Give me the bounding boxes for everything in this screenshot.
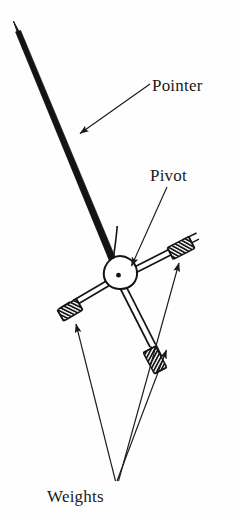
diagram-svg bbox=[0, 0, 240, 515]
label-pointer: Pointer bbox=[152, 76, 203, 96]
leader-pointer bbox=[80, 84, 150, 134]
pivot-center-dot bbox=[116, 273, 121, 278]
leader-pivot bbox=[132, 187, 168, 266]
label-pivot: Pivot bbox=[150, 166, 187, 186]
weight-left bbox=[57, 299, 82, 321]
figure-canvas: Pointer Pivot Weights bbox=[0, 0, 240, 515]
pointer-needle bbox=[13, 21, 126, 288]
weight-right bbox=[167, 237, 194, 260]
label-weights: Weights bbox=[47, 487, 104, 507]
